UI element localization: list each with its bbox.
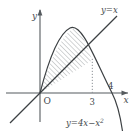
origin-label: O xyxy=(44,96,51,106)
line-equation-label: y=x xyxy=(100,5,118,15)
parabola-equation-label: y=4x−x2 xyxy=(65,117,104,128)
parabola-equation-base: y=4x−x xyxy=(65,118,100,128)
y-axis-arrow-icon xyxy=(38,9,43,16)
x-axis-label: x xyxy=(124,95,129,105)
x-tick-label-4: 4 xyxy=(108,81,113,91)
figure-canvas: y x O 3 4 y=x y=4x−x2 xyxy=(0,0,137,136)
math-figure: y x O 3 4 y=x y=4x−x2 xyxy=(0,0,137,136)
y-axis-label: y xyxy=(31,11,38,21)
parabola-equation-exponent: 2 xyxy=(99,117,104,124)
x-tick-label-3: 3 xyxy=(90,97,95,107)
